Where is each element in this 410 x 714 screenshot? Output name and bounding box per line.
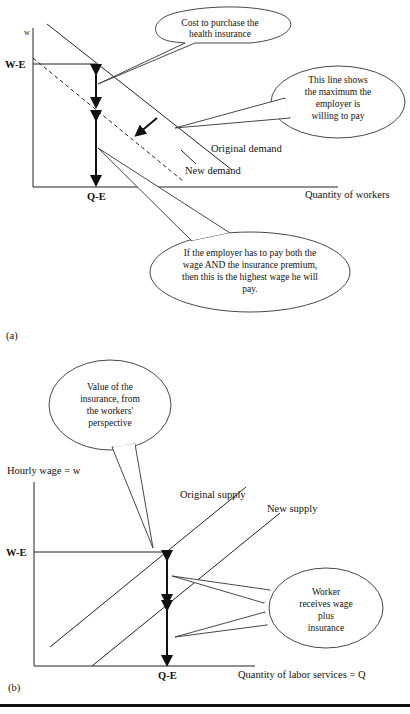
- svg-text:This line shows: This line shows: [308, 75, 368, 85]
- panel-b-caption: (b): [8, 682, 21, 694]
- svg-text:willing to pay: willing to pay: [312, 111, 365, 121]
- quantity-marker: Q-E: [87, 191, 106, 202]
- new-demand-label: New demand: [185, 165, 241, 176]
- original-demand-curve: [47, 24, 232, 170]
- svg-text:the maximum the: the maximum the: [305, 87, 372, 97]
- original-supply-label: Original supply: [180, 489, 246, 500]
- new-supply-label: New supply: [267, 503, 318, 514]
- wage-marker: W-E: [5, 59, 26, 70]
- new-demand-curve: [33, 58, 183, 181]
- svg-text:Value of the: Value of the: [87, 382, 133, 392]
- svg-text:plus: plus: [318, 611, 334, 621]
- original-supply-curve: [50, 487, 246, 647]
- callout-cost-to-purchase: Cost to purchase the health insurance: [98, 7, 291, 84]
- bottom-rule: [0, 704, 410, 707]
- svg-text:receives wage: receives wage: [299, 599, 353, 609]
- svg-text:then this is the highest wage: then this is the highest wage he will: [182, 272, 318, 282]
- svg-text:pay.: pay.: [242, 284, 257, 294]
- wage-marker: W-E: [6, 547, 27, 558]
- panel-a-demand-diagram: w Quantity of workers W-E Original deman…: [5, 7, 405, 342]
- original-demand-label: Original demand: [211, 143, 283, 154]
- svg-text:Cost to purchase the: Cost to purchase the: [181, 18, 258, 28]
- y-axis-label: w: [24, 28, 30, 37]
- svg-text:perspective: perspective: [88, 418, 131, 428]
- svg-text:Worker: Worker: [312, 587, 341, 597]
- svg-text:If the employer has to pay bot: If the employer has to pay both the: [184, 248, 317, 258]
- panel-b-supply-diagram: Value of the insurance, from the workers…: [6, 360, 383, 694]
- new-demand-pointer: [181, 150, 196, 164]
- panel-a-caption: (a): [6, 330, 18, 342]
- svg-text:the workers': the workers': [87, 406, 134, 416]
- x-axis-label: Quantity of labor services = Q: [238, 669, 366, 680]
- svg-text:employer is: employer is: [316, 99, 361, 109]
- svg-text:insurance, from: insurance, from: [80, 394, 140, 404]
- y-axis-label: Hourly wage = w: [7, 465, 81, 476]
- quantity-marker: Q-E: [158, 670, 177, 681]
- demand-shift-arrow: [139, 118, 157, 133]
- svg-text:insurance: insurance: [308, 623, 344, 633]
- x-axis-label: Quantity of workers: [305, 189, 390, 200]
- callout-insurance-value: Value of the insurance, from the workers…: [49, 360, 171, 548]
- svg-text:health insurance: health insurance: [189, 29, 251, 39]
- svg-text:wage AND the insurance premium: wage AND the insurance premium,: [183, 260, 317, 270]
- callout-maximum-willing: This line shows the maximum the employer…: [175, 66, 405, 138]
- callout-worker-receives: Worker receives wage plus insurance: [172, 568, 383, 648]
